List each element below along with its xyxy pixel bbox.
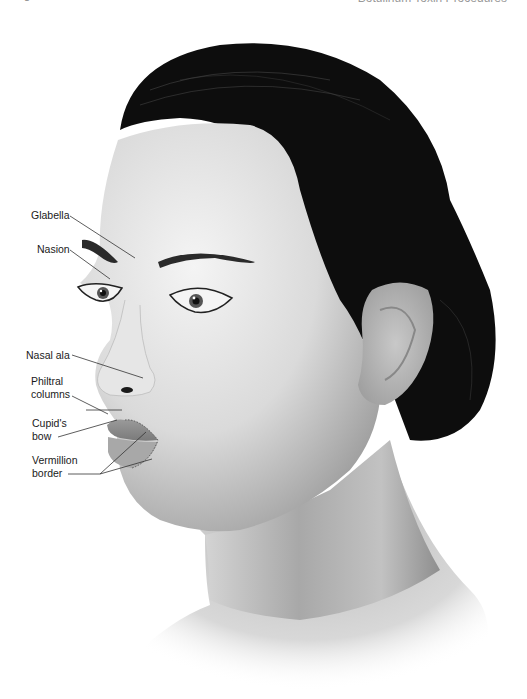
label-glabella: Glabella [31,209,70,221]
anatomy-figure: Glabella Nasion Nasal ala Philtral colum… [0,0,527,699]
label-cupids-bow-line1: Cupid's [32,417,67,429]
label-nasal-ala: Nasal ala [26,349,70,361]
label-cupids-bow-line2: bow [32,430,51,442]
label-vermillion-border-line2: border [32,467,62,479]
label-philtral-columns-line1: Philtral [31,375,63,387]
label-vermillion-border-line1: Vermillion [32,454,78,466]
label-nasion: Nasion [37,243,70,255]
label-philtral-columns-line2: columns [31,388,70,400]
head-illustration [0,0,527,699]
